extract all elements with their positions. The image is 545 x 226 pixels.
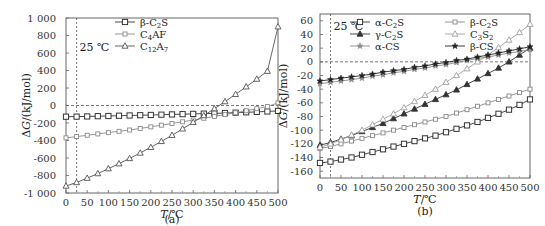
data-point [106, 131, 110, 135]
data-point [349, 155, 354, 160]
data-point [234, 111, 238, 115]
data-point [350, 139, 354, 143]
y-tick-label: -120 [291, 138, 313, 149]
data-point [518, 91, 522, 95]
y-tick-label: 600 [37, 48, 56, 59]
y-tick-label: -600 [34, 153, 56, 164]
legend-marker [452, 31, 458, 36]
data-point [455, 111, 459, 115]
chart-panel-a: 1 0008006004002000-200-400-600-800-1 000… [20, 13, 288, 226]
x-tick-label: 400 [478, 182, 497, 193]
data-point [191, 111, 196, 116]
y-tick-label: 0 [50, 100, 56, 111]
data-point [180, 112, 185, 117]
data-point [464, 123, 469, 128]
legend-marker [357, 43, 363, 49]
data-point [496, 44, 502, 49]
x-tick-label: 0 [63, 197, 69, 208]
legend-marker [123, 32, 127, 36]
data-point [339, 142, 343, 146]
data-point [254, 76, 260, 81]
data-point [255, 107, 259, 111]
data-point [158, 138, 164, 143]
data-point [527, 97, 532, 102]
legend: β-C2SC4AFC12A7 [115, 17, 168, 54]
data-point [85, 114, 90, 119]
data-point [402, 125, 406, 129]
x-tick-label: 500 [268, 197, 287, 208]
x-tick-label: 350 [205, 197, 224, 208]
data-point [138, 126, 142, 130]
data-point [116, 113, 121, 118]
legend-item-C12A7: C12A7 [115, 41, 168, 54]
data-point [85, 133, 89, 137]
data-point [95, 114, 100, 119]
x-tick-label: 300 [436, 182, 455, 193]
data-point [233, 91, 239, 96]
y-axis-label: ΔG/(kJ/mol) [277, 64, 290, 128]
panel-label: (a) [164, 213, 179, 225]
data-point [413, 123, 417, 127]
data-point [454, 126, 459, 131]
y-tick-label: 20 [300, 43, 313, 54]
data-point [371, 134, 375, 138]
x-tick-label: 400 [226, 197, 245, 208]
x-tick-label: 200 [394, 182, 413, 193]
data-point [401, 104, 407, 109]
legend-marker [453, 20, 457, 24]
annotation-25c: 25 ℃ [80, 41, 110, 54]
x-tick-label: 150 [120, 197, 139, 208]
data-point [265, 105, 269, 109]
series-C3S2 [317, 21, 533, 149]
data-point [422, 136, 427, 141]
legend-marker [452, 43, 458, 49]
data-point [211, 105, 217, 110]
data-point [476, 104, 480, 108]
data-point [137, 150, 143, 155]
y-tick-label: -1 000 [24, 188, 56, 199]
data-point [527, 21, 533, 26]
data-point [464, 65, 470, 70]
data-point [381, 131, 385, 135]
y-tick-label: 60 [300, 15, 313, 26]
data-point [380, 116, 386, 121]
y-tick-label: -100 [291, 125, 313, 136]
data-point [506, 107, 511, 112]
data-point [223, 113, 227, 117]
y-tick-label: -60 [297, 97, 313, 108]
data-point [422, 92, 428, 97]
data-point [159, 112, 164, 117]
legend-label: C12A7 [140, 41, 168, 54]
y-tick-label: -140 [291, 152, 313, 163]
data-point [443, 79, 449, 84]
data-point [117, 129, 121, 133]
data-point [138, 113, 143, 118]
data-point [180, 126, 186, 131]
x-tick-label: 200 [141, 197, 160, 208]
y-tick-label: -200 [34, 118, 56, 129]
data-point [370, 122, 376, 127]
data-point [465, 108, 469, 112]
data-point [517, 102, 522, 107]
data-point [517, 29, 523, 34]
data-point [149, 125, 153, 129]
x-tick-label: 100 [99, 197, 118, 208]
legend-item-β-CS: β-CS [445, 41, 494, 52]
data-point [443, 130, 448, 135]
data-point [359, 127, 365, 132]
legend-item-α-CS: α-CS [350, 41, 400, 52]
data-point [75, 135, 79, 139]
data-point [391, 144, 396, 149]
legend-label: β-CS [470, 41, 494, 52]
data-point [338, 157, 343, 162]
data-point [244, 109, 248, 113]
x-tick-label: 300 [184, 197, 203, 208]
legend: α-C2Sβ-C2Sγ-C2SC3S2α-CSβ-CS [350, 17, 498, 52]
series-α-C2S [317, 97, 532, 166]
data-point [496, 111, 501, 116]
data-point [433, 133, 438, 138]
x-tick-label: 250 [415, 182, 434, 193]
x-tick-label: 450 [247, 197, 266, 208]
data-point [159, 123, 163, 127]
y-tick-label: 1 000 [27, 13, 56, 24]
